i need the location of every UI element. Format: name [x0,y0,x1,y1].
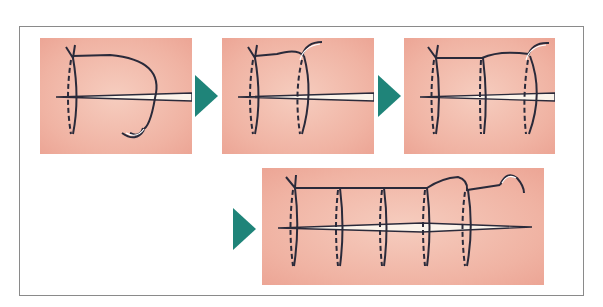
suture-step-2-illustration [222,38,374,154]
triangle-right-icon [195,75,218,117]
triangle-right-icon [378,75,401,117]
step-panel-1: Step 1: initial anchoring stitch, needle… [40,38,192,154]
suture-step-4-illustration [262,168,544,285]
step-panel-2: Step 2: second pass of running suture [222,38,374,154]
triangle-right-icon [233,208,256,250]
step-panel-3: Step 3: third pass of running suture [404,38,555,154]
suture-step-1-illustration [40,38,192,154]
suture-step-3-illustration [404,38,555,154]
step-panel-4: Step 4: completed running suture with fi… [262,168,544,285]
